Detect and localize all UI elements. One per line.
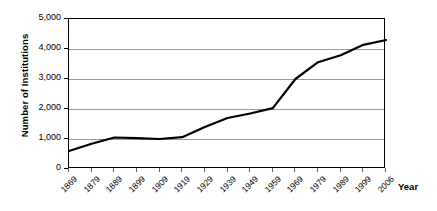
x-tick-mark (362, 168, 363, 172)
x-tick-mark (136, 168, 137, 172)
x-tick-mark (294, 168, 295, 172)
x-tick-mark (227, 168, 228, 172)
series-line (69, 19, 386, 169)
x-tick-mark (113, 168, 114, 172)
x-tick-mark (317, 168, 318, 172)
x-axis-title: Year (398, 181, 418, 192)
y-tick-label: 2,000 (1, 102, 61, 112)
x-tick-mark (181, 168, 182, 172)
y-tick-label: 4,000 (1, 42, 61, 52)
y-tick-label: 0 (1, 162, 61, 172)
line-chart: Number of Institutions 01,0002,0003,0004… (0, 0, 437, 211)
x-tick-mark (204, 168, 205, 172)
y-tick-label: 5,000 (1, 12, 61, 22)
y-tick-label: 1,000 (1, 132, 61, 142)
x-tick-mark (68, 168, 69, 172)
x-tick-mark (249, 168, 250, 172)
plot-area (68, 18, 385, 168)
x-tick-mark (272, 168, 273, 172)
x-tick-mark (91, 168, 92, 172)
series-polyline (69, 40, 386, 151)
x-tick-mark (340, 168, 341, 172)
x-tick-mark (385, 168, 386, 172)
y-tick-label: 3,000 (1, 72, 61, 82)
x-tick-mark (159, 168, 160, 172)
